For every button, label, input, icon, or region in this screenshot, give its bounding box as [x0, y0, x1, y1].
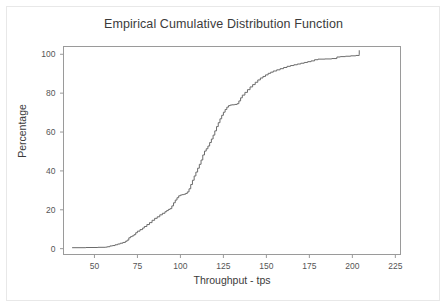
figure-container: Empirical Cumulative Distribution Functi… [0, 0, 447, 308]
x-tick-label: 225 [388, 261, 402, 271]
y-tick-label: 20 [30, 205, 56, 215]
x-tick-label: 75 [133, 261, 142, 271]
y-axis-ticks [60, 54, 64, 248]
plot-area-wrapper: Percentage Throughput - tps 507510012515… [0, 0, 447, 308]
plot-frame [64, 47, 401, 255]
y-tick-label: 60 [30, 127, 56, 137]
x-tick-label: 175 [302, 261, 316, 271]
x-tick-label: 125 [216, 261, 230, 271]
y-tick-label: 40 [30, 166, 56, 176]
y-tick-label: 0 [30, 244, 56, 254]
y-tick-label: 80 [30, 88, 56, 98]
x-tick-label: 150 [259, 261, 273, 271]
x-tick-label: 50 [90, 261, 99, 271]
x-tick-label: 200 [345, 261, 359, 271]
x-axis-ticks [94, 255, 395, 259]
y-tick-label: 100 [30, 49, 56, 59]
y-axis-title: Percentage [16, 81, 28, 181]
x-axis-title: Throughput - tps [63, 274, 401, 286]
plot-frame-rect [64, 47, 401, 255]
x-tick-label: 100 [173, 261, 187, 271]
